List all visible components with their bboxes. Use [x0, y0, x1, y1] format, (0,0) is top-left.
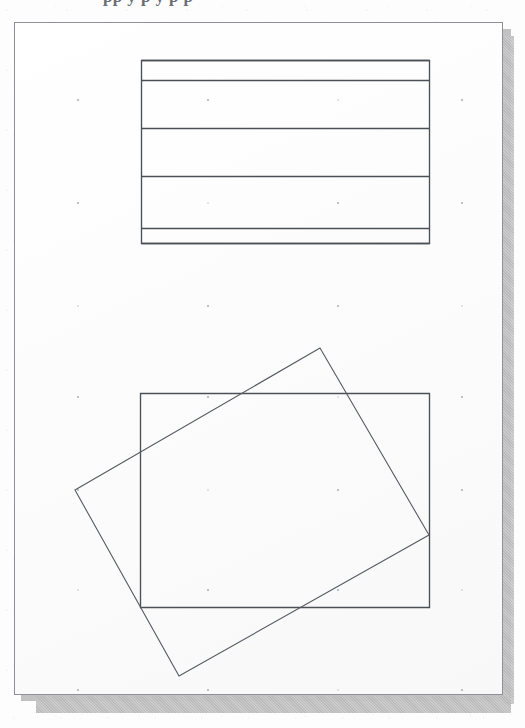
- cropped-header-strip: pp y p y p p: [0, 0, 525, 10]
- grid-dot: [461, 689, 463, 691]
- grid-dot: [461, 396, 463, 398]
- grid-dot: [207, 396, 209, 398]
- grid-dot: [207, 202, 209, 204]
- page-paper-tint: [15, 23, 502, 694]
- grid-dot: [77, 99, 79, 101]
- document-page-sheet: [14, 22, 503, 695]
- right-edge-shadow-band: [503, 36, 514, 704]
- grid-dot: [337, 202, 339, 204]
- grid-dot: [337, 589, 339, 591]
- grid-dot: [207, 305, 209, 307]
- grid-dot: [337, 305, 339, 307]
- grid-dot: [461, 589, 463, 591]
- grid-dot: [77, 489, 79, 491]
- grid-dot: [77, 202, 79, 204]
- grid-dot: [461, 202, 463, 204]
- grid-dot: [207, 689, 209, 691]
- grid-dot: [77, 689, 79, 691]
- grid-dot: [337, 396, 339, 398]
- grid-dot: [461, 99, 463, 101]
- grid-dot: [77, 305, 79, 307]
- scanned-page-canvas: Box of lines and band figureA rectangle …: [0, 0, 525, 728]
- grid-dot: [337, 689, 339, 691]
- grid-dot: [77, 396, 79, 398]
- cropped-header-text: pp y p y p p: [103, 0, 193, 7]
- grid-dot: [207, 589, 209, 591]
- grid-dot: [461, 305, 463, 307]
- grid-dot: [337, 99, 339, 101]
- grid-dot: [77, 589, 79, 591]
- grid-dot: [207, 99, 209, 101]
- grid-dot: [207, 489, 209, 491]
- grid-dot: [461, 489, 463, 491]
- grid-dot: [337, 489, 339, 491]
- bottom-edge-shadow-band: [36, 696, 511, 713]
